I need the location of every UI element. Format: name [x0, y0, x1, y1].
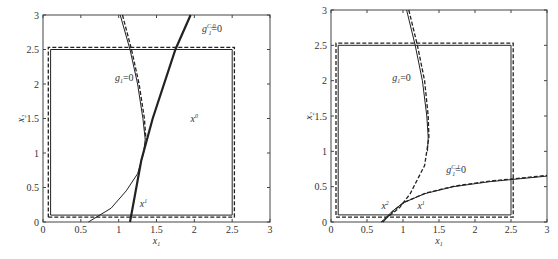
x-axis-label: x1	[152, 235, 160, 247]
y-tick-label: 0.5	[27, 182, 40, 193]
annotation: x1	[416, 200, 424, 211]
y-axis-label: x2	[303, 112, 315, 120]
annotation: gC,11=0	[446, 164, 466, 177]
annotation: g1=0	[115, 72, 134, 84]
x-tick-label: 2.5	[505, 224, 518, 235]
x-axis-label: x1	[434, 235, 442, 247]
left-chart: 00.511.522.5300.511.522.53x1x2g1=0gC,01=…	[15, 10, 273, 248]
y-tick-label: 1	[322, 146, 327, 157]
y-tick-label: 2.5	[27, 44, 40, 55]
x-tick-label: 0.5	[361, 224, 374, 235]
series-line	[51, 50, 233, 216]
series-line	[130, 15, 191, 222]
annotation: x1	[139, 198, 147, 209]
x-tick-label: 0	[329, 224, 334, 235]
y-tick-label: 2	[34, 79, 39, 90]
y-tick-label: 1.5	[315, 111, 328, 122]
series-line	[381, 10, 429, 222]
x-tick-label: 0	[41, 224, 46, 235]
x-tick-label: 1.5	[150, 224, 163, 235]
y-axis-label: x2	[15, 115, 27, 123]
series-line	[48, 47, 234, 217]
x-tick-label: 1	[116, 224, 121, 235]
y-tick-label: 2.5	[315, 40, 328, 51]
y-tick-label: 3	[34, 10, 39, 21]
x-tick-label: 2.5	[226, 224, 239, 235]
x-tick-label: 3	[545, 224, 550, 235]
y-tick-label: 2	[322, 75, 327, 86]
x-tick-label: 1	[401, 224, 406, 235]
x-tick-label: 1.5	[433, 224, 446, 235]
series-line	[336, 43, 513, 217]
y-tick-label: 0.5	[315, 181, 328, 192]
y-tick-label: 0	[322, 217, 327, 228]
plot-frame	[43, 15, 270, 222]
y-tick-label: 3	[322, 5, 327, 16]
figure: 00.511.522.5300.511.522.53x1x2g1=0gC,01=…	[0, 0, 558, 259]
x-tick-label: 2	[473, 224, 478, 235]
y-tick-label: 0	[34, 217, 39, 228]
annotation: g1=0	[392, 72, 411, 84]
right-chart: 00.511.522.5300.511.522.53x1x2g1=0gC,11=…	[303, 5, 550, 248]
series-line	[338, 45, 511, 215]
x-tick-label: 2	[192, 224, 197, 235]
annotation: x2	[380, 200, 388, 211]
annotation: gC,01=0	[202, 23, 222, 36]
x-tick-label: 3	[268, 224, 273, 235]
annotation: x0	[190, 113, 198, 124]
x-tick-label: 0.5	[75, 224, 88, 235]
y-tick-label: 1.5	[27, 113, 40, 124]
y-tick-label: 1	[34, 148, 39, 159]
